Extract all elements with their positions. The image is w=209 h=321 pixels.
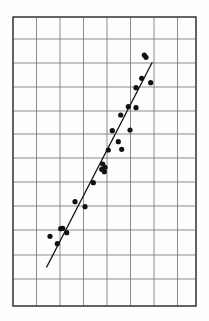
data-point-1 [55,241,60,246]
data-point-3 [64,230,69,235]
data-point-19 [133,105,138,110]
data-point-17 [118,112,123,117]
data-point-12 [106,147,111,152]
data-point-15 [110,128,115,133]
scatter-plot-figure [0,0,209,321]
plot-canvas [0,0,209,321]
data-point-7 [91,180,96,185]
data-point-6 [82,204,87,209]
data-point-5 [72,199,77,204]
data-point-20 [133,85,138,90]
data-point-0 [47,234,52,239]
data-point-16 [127,127,132,132]
data-point-22 [139,76,144,81]
data-point-13 [119,147,124,152]
data-point-24 [142,52,147,57]
data-point-14 [116,139,121,144]
data-point-18 [126,104,131,109]
data-point-4 [60,226,65,231]
data-point-21 [148,80,153,85]
data-point-11 [102,169,107,174]
data-point-10 [100,161,105,166]
